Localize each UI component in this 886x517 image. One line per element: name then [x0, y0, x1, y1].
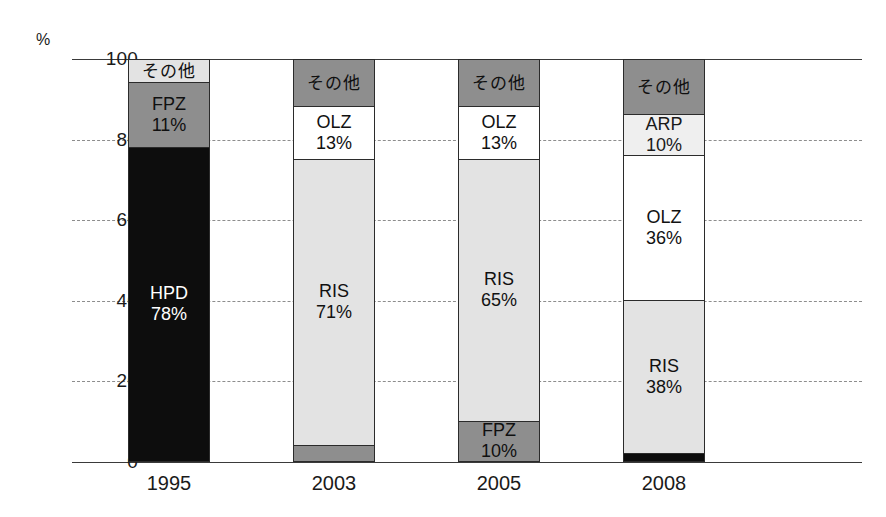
- segment-label: その他: [142, 61, 196, 82]
- segment-label: RIS: [319, 281, 349, 302]
- x-axis-label-2003: 2003: [269, 472, 399, 495]
- segment-label: OLZ: [646, 207, 681, 228]
- x-axis-label-2008: 2008: [599, 472, 729, 495]
- gridline-0: [72, 462, 862, 463]
- segment-label: HPD: [150, 283, 188, 304]
- segment-label: FPZ: [482, 422, 516, 442]
- bar-2008[interactable]: その他ARP10%OLZ36%RIS38%: [623, 59, 705, 462]
- segment-label: RIS: [649, 356, 679, 377]
- segment-value: 71%: [316, 302, 352, 323]
- bar-segment-1995-HPD[interactable]: HPD78%: [128, 148, 210, 462]
- segment-label: その他: [307, 73, 361, 94]
- bar-segment-2008-OLZ[interactable]: OLZ36%: [623, 156, 705, 301]
- bar-2005[interactable]: その他OLZ13%RIS65%FPZ10%: [458, 59, 540, 462]
- segment-label: その他: [472, 73, 526, 94]
- bar-segment-2005-RIS[interactable]: RIS65%: [458, 160, 540, 422]
- segment-value: 38%: [646, 377, 682, 398]
- bar-segment-2008-RIS[interactable]: RIS38%: [623, 301, 705, 454]
- bar-2003[interactable]: その他OLZ13%RIS71%: [293, 59, 375, 462]
- segment-value: 36%: [646, 228, 682, 249]
- bar-1995[interactable]: その他FPZ11%HPD78%: [128, 59, 210, 462]
- segment-label: OLZ: [316, 112, 351, 133]
- bar-segment-1995-FPZ[interactable]: FPZ11%: [128, 83, 210, 147]
- bar-segment-2005-FPZ[interactable]: FPZ10%: [458, 422, 540, 462]
- segment-label: OLZ: [481, 112, 516, 133]
- bar-segment-2005-その他[interactable]: その他: [458, 59, 540, 107]
- bar-segment-2003-その他[interactable]: その他: [293, 59, 375, 107]
- segment-value: 10%: [646, 135, 682, 156]
- segment-value: 65%: [481, 290, 517, 311]
- bar-segment-2003-OLZ[interactable]: OLZ13%: [293, 107, 375, 159]
- segment-value: 13%: [316, 133, 352, 154]
- segment-value: 78%: [151, 304, 187, 325]
- segment-label: ARP: [645, 115, 682, 135]
- segment-label: FPZ: [152, 94, 186, 115]
- stacked-bar-chart: % 100806040200その他FPZ11%HPD78%その他OLZ13%RI…: [0, 0, 886, 517]
- bar-segment-2008-その他[interactable]: その他: [623, 59, 705, 115]
- bar-segment-2008-ARP[interactable]: ARP10%: [623, 115, 705, 155]
- bar-segment-2003-RIS[interactable]: RIS71%: [293, 160, 375, 446]
- x-axis-label-1995: 1995: [104, 472, 234, 495]
- segment-value: 13%: [481, 133, 517, 154]
- bar-segment-2005-OLZ[interactable]: OLZ13%: [458, 107, 540, 159]
- segment-value: 10%: [481, 441, 517, 462]
- x-axis-label-2005: 2005: [434, 472, 564, 495]
- segment-label: RIS: [484, 269, 514, 290]
- y-axis-unit-label: %: [36, 31, 50, 49]
- plot-area: 100806040200その他FPZ11%HPD78%その他OLZ13%RIS7…: [72, 59, 862, 462]
- bar-segment-2008-unlabeled-4[interactable]: [623, 454, 705, 462]
- bottom-caption: [26, 503, 866, 517]
- bar-segment-2003-unlabeled-3[interactable]: [293, 446, 375, 462]
- bar-segment-1995-その他[interactable]: その他: [128, 59, 210, 83]
- segment-label: その他: [637, 77, 691, 98]
- segment-value: 11%: [152, 115, 187, 136]
